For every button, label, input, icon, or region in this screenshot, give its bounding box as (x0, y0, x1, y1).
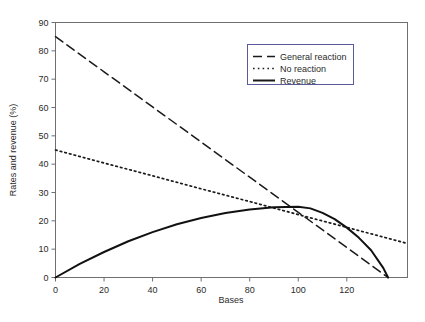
plot-frame (56, 23, 408, 278)
series-line-revenue (56, 207, 389, 278)
legend-label: General reaction (280, 52, 347, 62)
x-tick-label: 100 (291, 285, 306, 295)
y-tick-label: 30 (38, 188, 48, 198)
y-tick-label: 20 (38, 216, 48, 226)
x-tick-label: 60 (196, 285, 206, 295)
x-axis-title: Bases (218, 295, 244, 305)
data-series-group (56, 37, 408, 278)
x-tick-label: 80 (245, 285, 255, 295)
legend-label: Revenue (280, 76, 316, 86)
y-tick-label: 50 (38, 131, 48, 141)
chart-figure: 0102030405060708090 020406080100120 Base… (0, 0, 425, 322)
x-tick-label: 20 (99, 285, 109, 295)
y-tick-label: 10 (38, 244, 48, 254)
chart-canvas: 0102030405060708090 020406080100120 Base… (0, 0, 425, 322)
y-axis-tick-labels: 0102030405060708090 (38, 18, 48, 283)
y-tick-label: 90 (38, 18, 48, 28)
x-tick-label: 120 (339, 285, 354, 295)
y-tick-label: 70 (38, 74, 48, 84)
y-tick-label: 60 (38, 103, 48, 113)
x-axis-tick-labels: 020406080100120 (53, 285, 354, 295)
chart-legend: General reactionNo reactionRevenue (248, 45, 354, 86)
y-tick-label: 0 (43, 273, 48, 283)
y-tick-label: 40 (38, 159, 48, 169)
legend-label: No reaction (280, 64, 326, 74)
x-tick-label: 40 (148, 285, 158, 295)
y-tick-label: 80 (38, 46, 48, 56)
x-axis-ticks (56, 278, 347, 282)
x-tick-label: 0 (53, 285, 58, 295)
y-axis-title: Rates and revenue (%) (8, 104, 18, 197)
